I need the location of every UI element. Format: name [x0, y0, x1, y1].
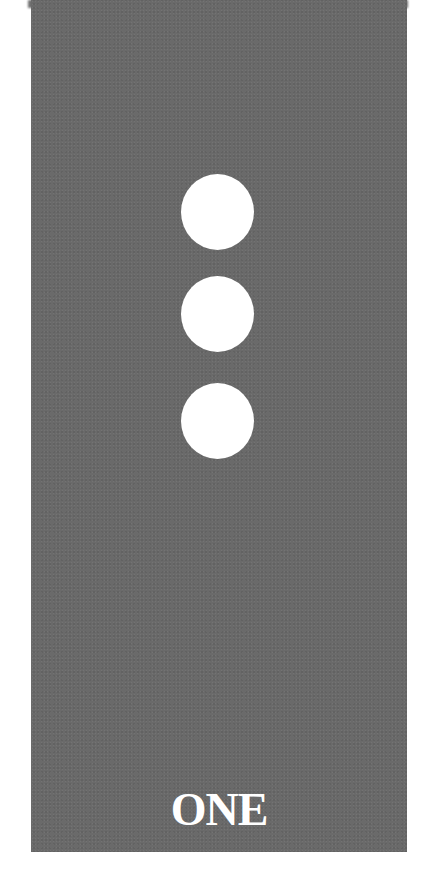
card-label: ONE	[31, 785, 407, 835]
white-dot-2	[181, 276, 254, 352]
white-dot-3	[181, 383, 254, 459]
white-dot-1	[181, 174, 254, 250]
